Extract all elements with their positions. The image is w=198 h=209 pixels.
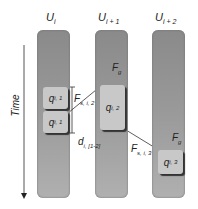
box-q-i2: qi, 2 — [100, 85, 125, 130]
box-q-i1-upper: qi, 1 — [43, 87, 68, 109]
column-label-ui2: Ui + 2 — [155, 11, 176, 25]
box-q-i3: qi, 3 — [158, 150, 183, 174]
time-axis-label: Time — [10, 94, 21, 116]
label-fs-i2: Fs, i, 2 — [74, 93, 94, 106]
label-fg-2: Fg — [112, 62, 121, 75]
column-label-ui: Ui — [46, 11, 56, 25]
label-d-i12: di, [1-2] — [78, 136, 100, 149]
column-label-ui1: Ui + 1 — [98, 11, 119, 25]
box-q-i1-lower: qi, 1 — [43, 111, 68, 133]
label-fs-i3: Fs, i, 3 — [131, 143, 151, 156]
label-fg-3: Fg — [172, 132, 181, 145]
